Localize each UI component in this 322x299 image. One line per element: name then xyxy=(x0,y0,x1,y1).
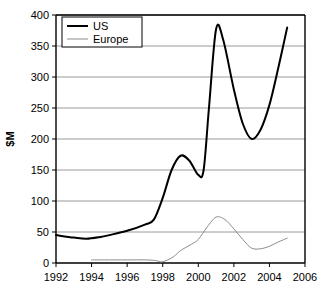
y-tick-label-150: 150 xyxy=(31,164,49,176)
y-tick-label-100: 100 xyxy=(31,195,49,207)
series-line-us xyxy=(56,25,287,239)
x-tick-label-2006: 2006 xyxy=(293,271,317,283)
chart-legend: USEurope xyxy=(62,17,142,47)
x-tick-label-2000: 2000 xyxy=(186,271,210,283)
x-tick-label-1998: 1998 xyxy=(150,271,174,283)
y-tick-label-300: 300 xyxy=(31,71,49,83)
x-axis-ticks: 19921994199619982000200220042006 xyxy=(44,263,317,283)
y-axis-ticks: 050100150200250300350400 xyxy=(31,9,56,269)
line-chart: 050100150200250300350400 199219941996199… xyxy=(0,0,322,299)
y-tick-label-50: 50 xyxy=(37,226,49,238)
x-tick-label-1994: 1994 xyxy=(79,271,103,283)
y-tick-label-350: 350 xyxy=(31,40,49,52)
y-tick-label-0: 0 xyxy=(43,257,49,269)
y-tick-label-400: 400 xyxy=(31,9,49,21)
x-tick-label-2004: 2004 xyxy=(257,271,281,283)
series-line-europe xyxy=(92,217,288,262)
x-tick-label-2002: 2002 xyxy=(222,271,246,283)
y-axis-title: $M xyxy=(4,131,16,146)
chart-container: 050100150200250300350400 199219941996199… xyxy=(0,0,322,299)
y-tick-label-250: 250 xyxy=(31,102,49,114)
legend-label-europe: Europe xyxy=(93,33,128,45)
x-tick-label-1996: 1996 xyxy=(115,271,139,283)
legend-label-us: US xyxy=(93,20,108,32)
data-series xyxy=(56,25,287,262)
y-tick-label-200: 200 xyxy=(31,133,49,145)
y-axis-label: $M xyxy=(4,131,16,146)
gridlines xyxy=(56,15,305,232)
x-tick-label-1992: 1992 xyxy=(44,271,68,283)
